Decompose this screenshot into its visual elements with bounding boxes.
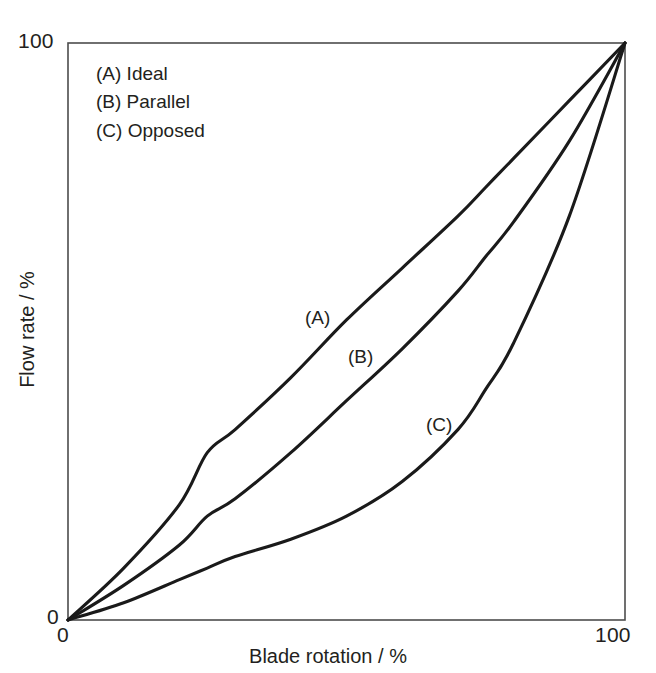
x-axis-title: Blade rotation / % [0, 645, 656, 668]
y-axis-tick-max: 100 [18, 29, 54, 53]
legend-item-opposed: (C) Opposed [96, 120, 205, 142]
legend: (A) Ideal (B) Parallel (C) Opposed [96, 63, 205, 142]
x-axis-tick-min: 0 [57, 623, 69, 647]
legend-item-parallel: (B) Parallel [96, 91, 205, 113]
curve-label-a: (A) [305, 307, 330, 329]
chart-figure: 100 0 0 100 Blade rotation / % Flow rate… [0, 0, 656, 673]
y-axis-title: Flow rate / % [16, 250, 39, 410]
legend-item-ideal: (A) Ideal [96, 63, 205, 85]
curve-label-b: (B) [348, 346, 373, 368]
x-axis-tick-max: 100 [595, 623, 631, 647]
curve-label-c: (C) [426, 414, 452, 436]
